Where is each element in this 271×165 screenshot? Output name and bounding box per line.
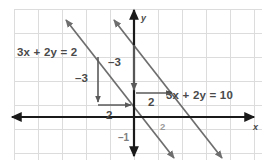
slope-label-left-rise: –3	[75, 73, 88, 85]
slope-label-right-run: 2	[148, 97, 154, 109]
grid-lines	[14, 9, 262, 160]
equation-text-left: 3x + 2y = 2	[17, 46, 77, 58]
y-axis-label: y	[141, 14, 146, 23]
coordinate-plane-svg	[0, 0, 271, 165]
graph-figure: 3x + 2y = 2 3x + 2y = 10 –3 2 –3 2 y x 2…	[0, 0, 271, 165]
y-axis-tick-neg1: –1	[118, 133, 129, 143]
x-axis-tick-2: 2	[160, 122, 165, 132]
x-axis-label: x	[253, 123, 258, 132]
equation-label-right: 3x + 2y = 10	[166, 90, 233, 102]
slope-label-right-rise: –3	[108, 57, 121, 69]
equation-label-left: 3x + 2y = 2	[17, 47, 77, 59]
slope-label-left-run: 2	[106, 110, 112, 122]
equation-text-right: 3x + 2y = 10	[166, 89, 233, 101]
